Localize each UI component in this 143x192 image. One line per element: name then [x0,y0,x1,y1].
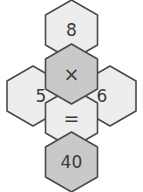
hex-label-bottom: 40 [60,152,82,172]
hexagon-diagram: 8 5 6 = × 40 [0,0,143,192]
hex-label-multiply: × [63,63,79,85]
hexagon-puzzle-canvas: 8 5 6 = × 40 [0,0,143,192]
hex-label-top: 8 [66,20,77,40]
hex-cell-bottom[interactable]: 40 [46,132,98,192]
hex-label-equals: = [63,107,79,129]
